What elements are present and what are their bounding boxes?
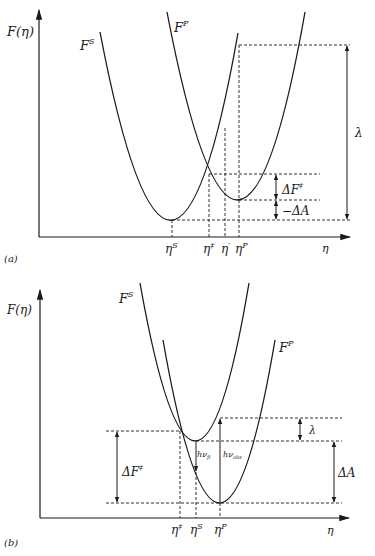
- delta-a-label: ΔA: [337, 466, 356, 480]
- tick-eta-prime: η′: [221, 241, 230, 256]
- panel-caption: (b): [4, 537, 18, 548]
- curve-f-s: [100, 32, 238, 220]
- h-nu-fl-label: hνfl: [197, 450, 211, 461]
- curve-f-s: [140, 283, 249, 441]
- panel-caption: (a): [4, 253, 18, 264]
- lambda-label: λ: [354, 126, 363, 140]
- curve-label-f-p: FP: [173, 19, 189, 35]
- tick-eta-s: ηS: [190, 522, 203, 537]
- lambda-label: λ: [308, 424, 316, 437]
- panel-b: F(η) η (b) FS FP η‡ ηS ηP ΔF‡ hνfl hνabs…: [4, 283, 356, 548]
- curve-label-f-s: FS: [79, 37, 95, 53]
- tick-eta-s: ηS: [165, 241, 178, 256]
- curve-label-f-s: FS: [118, 290, 134, 306]
- y-axis-label: F(η): [6, 303, 32, 317]
- tick-eta-dagger: η‡: [203, 241, 215, 256]
- x-axis-label: η: [327, 524, 334, 537]
- h-nu-abs-label: hνabs: [223, 450, 242, 460]
- x-axis-label: η: [322, 242, 329, 255]
- delta-f-label: ΔF‡: [281, 181, 304, 197]
- neg-delta-a-label: −ΔA: [282, 204, 310, 218]
- marcus-diagram: F(η) η (a) FS FP ηS η‡ η′ ηP λ ΔF‡ −ΔA: [0, 0, 375, 556]
- tick-eta-p: ηP: [214, 522, 227, 537]
- delta-f-label: ΔF‡: [121, 463, 144, 479]
- curve-label-f-p: FP: [278, 339, 294, 355]
- y-axis-label: F(η): [6, 24, 34, 39]
- tick-eta-p: ηP: [235, 241, 248, 256]
- panel-a: F(η) η (a) FS FP ηS η‡ η′ ηP λ ΔF‡ −ΔA: [4, 10, 363, 264]
- tick-eta-dagger: η‡: [171, 522, 183, 537]
- curve-f-p: [167, 12, 305, 200]
